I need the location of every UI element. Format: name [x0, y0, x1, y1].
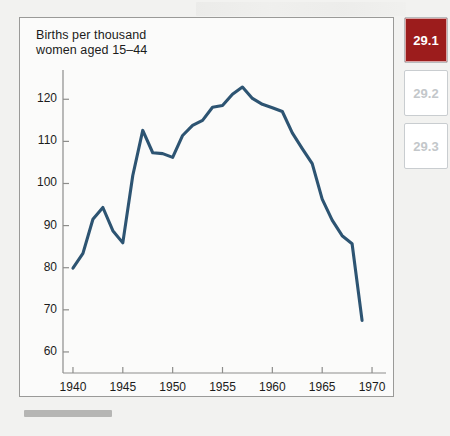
x-tick-label: 1950 [153, 380, 193, 394]
figure-thumbnail-rail[interactable]: 29.1 29.2 29.3 [404, 17, 450, 176]
x-tick-label: 1940 [53, 380, 93, 394]
y-tick-label: 100 [27, 175, 57, 189]
y-tick-label: 70 [27, 302, 57, 316]
y-tick-label: 90 [27, 218, 57, 232]
x-tick-label: 1970 [352, 380, 392, 394]
x-tick-label: 1965 [302, 380, 342, 394]
y-tick-label: 120 [27, 91, 57, 105]
rail-tile-29-3[interactable]: 29.3 [404, 123, 448, 169]
x-tick-label: 1945 [103, 380, 143, 394]
x-tick-label: 1960 [252, 380, 292, 394]
line-chart-plot [20, 18, 395, 398]
x-tick-label: 1955 [203, 380, 243, 394]
rail-tile-29-1[interactable]: 29.1 [404, 17, 448, 63]
y-tick-label: 60 [27, 344, 57, 358]
page-bleed-artifact [196, 2, 406, 16]
y-tick-label: 80 [27, 260, 57, 274]
figure-frame: Births per thousand women aged 15–44 607… [19, 17, 394, 397]
page-footer-rule [24, 410, 112, 417]
rail-tile-29-2[interactable]: 29.2 [404, 70, 448, 116]
y-tick-label: 110 [27, 133, 57, 147]
